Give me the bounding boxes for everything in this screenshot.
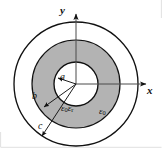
radius-b-label: b: [32, 91, 37, 101]
eps-subscript-r: r: [71, 106, 73, 113]
physics-diagram-figure: y x a b c ε0εr ε0: [0, 0, 162, 148]
diagram-canvas: [0, 0, 162, 148]
y-axis-label: y: [60, 5, 65, 16]
radius-c-label: c: [38, 121, 42, 131]
free-space-permittivity-label: ε0: [99, 107, 106, 117]
eps-subscript-0b: 0: [103, 109, 106, 116]
dielectric-permittivity-label: ε0εr: [61, 104, 74, 114]
x-axis-label: x: [147, 85, 153, 96]
radius-a-label: a: [60, 72, 65, 82]
